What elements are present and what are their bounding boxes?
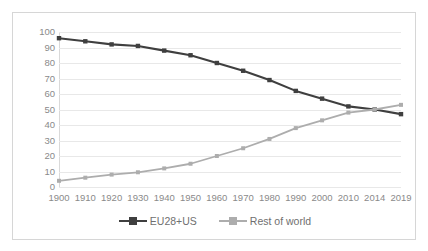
data-point-marker — [109, 42, 113, 46]
legend-item-label: EU28+US — [150, 216, 197, 227]
data-point-marker — [215, 154, 219, 158]
data-point-marker — [189, 162, 193, 166]
y-axis-tick-label: 90 — [29, 43, 55, 53]
y-axis-tick-label: 40 — [29, 120, 55, 130]
x-axis: 1900191019201930194019501960197019801990… — [59, 191, 401, 205]
y-axis-tick-label: 50 — [29, 105, 55, 115]
data-point-marker — [241, 146, 245, 150]
legend-item[interactable]: EU28+US — [119, 216, 197, 227]
data-point-marker — [320, 96, 324, 100]
x-axis-tick-label: 1920 — [101, 191, 122, 205]
y-axis-tick-label: 100 — [29, 27, 55, 37]
data-point-marker — [267, 137, 271, 141]
data-point-marker — [110, 173, 114, 177]
y-axis-tick-label: 80 — [29, 58, 55, 68]
data-point-marker — [162, 166, 166, 170]
data-point-marker — [320, 118, 324, 122]
legend-item-label: Rest of world — [250, 216, 311, 227]
x-axis-tick-label: 1980 — [259, 191, 280, 205]
x-axis-tick-label: 2010 — [338, 191, 359, 205]
y-axis-tick-label: 30 — [29, 136, 55, 146]
chart-container: 1009080706050403020100 19001910192019301… — [12, 12, 416, 240]
series-layer — [59, 32, 401, 187]
x-axis-tick-label: 1950 — [180, 191, 201, 205]
y-axis-tick-label: 70 — [29, 74, 55, 84]
x-axis-tick-label: 1900 — [48, 191, 69, 205]
data-point-marker — [136, 44, 140, 48]
data-point-marker — [215, 61, 219, 65]
x-axis-tick-label: 1930 — [127, 191, 148, 205]
legend-swatch-icon — [219, 216, 247, 226]
data-point-marker — [188, 53, 192, 57]
x-axis-tick-label: 2000 — [311, 191, 332, 205]
data-point-marker — [83, 176, 87, 180]
y-axis: 1009080706050403020100 — [29, 32, 55, 187]
data-point-marker — [346, 104, 350, 108]
y-axis-tick-label: 60 — [29, 89, 55, 99]
data-point-marker — [399, 112, 403, 116]
data-point-marker — [241, 69, 245, 73]
data-point-marker — [373, 108, 377, 112]
x-axis-tick-label: 1970 — [233, 191, 254, 205]
chart-plot-wrapper: 1009080706050403020100 19001910192019301… — [13, 13, 417, 241]
data-point-marker — [57, 179, 61, 183]
x-axis-tick-label: 1910 — [75, 191, 96, 205]
data-point-marker — [294, 89, 298, 93]
series-line — [59, 105, 401, 181]
legend-swatch-icon — [119, 216, 147, 226]
series-line — [59, 38, 401, 114]
series-rest-of-world — [57, 103, 403, 183]
y-axis-tick-label: 10 — [29, 167, 55, 177]
data-point-marker — [57, 36, 61, 40]
data-point-marker — [162, 48, 166, 52]
x-axis-tick-label: 2014 — [364, 191, 385, 205]
data-point-marker — [267, 78, 271, 82]
data-point-marker — [136, 170, 140, 174]
x-axis-tick-label: 1940 — [154, 191, 175, 205]
plot-area — [59, 32, 401, 187]
data-point-marker — [399, 103, 403, 107]
data-point-marker — [83, 39, 87, 43]
legend-item[interactable]: Rest of world — [219, 216, 311, 227]
x-axis-tick-label: 1960 — [206, 191, 227, 205]
y-axis-tick-label: 20 — [29, 151, 55, 161]
x-axis-tick-label: 1990 — [285, 191, 306, 205]
series-eu28-us — [57, 36, 403, 116]
x-axis-tick-label: 2019 — [390, 191, 411, 205]
chart-legend: EU28+USRest of world — [13, 211, 417, 231]
data-point-marker — [294, 126, 298, 130]
data-point-marker — [346, 111, 350, 115]
gridline — [59, 187, 401, 188]
